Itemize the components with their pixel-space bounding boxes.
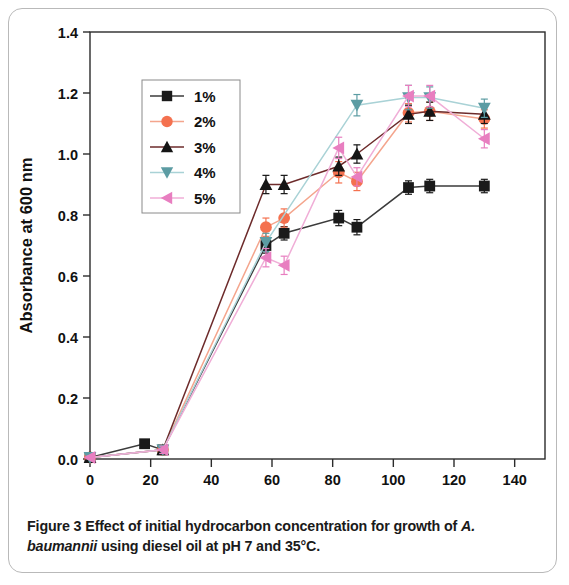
y-axis-tick-label: 0.6 bbox=[58, 269, 78, 285]
absorbance-vs-time-chart: 0.00.20.40.60.81.01.21.40204060801001201… bbox=[0, 0, 569, 500]
chart-legend: 1%2%3%4%5% bbox=[142, 80, 240, 213]
legend-label: 4% bbox=[194, 164, 216, 181]
y-axis-tick-label: 0.0 bbox=[58, 452, 78, 468]
x-axis-tick-label: 120 bbox=[442, 472, 466, 488]
figure-caption: Figure 3 Effect of initial hydrocarbon c… bbox=[27, 516, 532, 557]
data-marker-square bbox=[424, 181, 435, 192]
x-axis-tick-label: 80 bbox=[325, 472, 341, 488]
data-marker-triangle-down bbox=[478, 103, 491, 115]
data-marker-square bbox=[479, 181, 490, 192]
legend-label: 1% bbox=[194, 88, 216, 105]
data-marker-square bbox=[403, 182, 414, 193]
y-axis-tick-label: 1.4 bbox=[58, 25, 78, 41]
data-marker-square bbox=[162, 91, 172, 101]
y-axis-tick-label: 0.2 bbox=[58, 391, 78, 407]
x-axis-tick-label: 20 bbox=[143, 472, 159, 488]
caption-text-part2: using diesel oil at pH 7 and 35°C. bbox=[97, 538, 320, 554]
x-axis-tick-label: 60 bbox=[264, 472, 280, 488]
y-axis-tick-label: 1.0 bbox=[58, 147, 78, 163]
chart-plot-area: 0.00.20.40.60.81.01.21.40204060801001201… bbox=[0, 0, 569, 500]
data-marker-triangle-up bbox=[351, 148, 364, 160]
data-marker-triangle-down bbox=[351, 100, 364, 112]
y-axis-tick-label: 0.4 bbox=[58, 330, 78, 346]
data-marker-square bbox=[352, 222, 363, 233]
y-axis-title: Absorbance at 600 nm bbox=[17, 157, 35, 333]
x-axis-tick-label: 40 bbox=[203, 472, 219, 488]
data-marker-triangle-up bbox=[332, 160, 345, 172]
legend-label: 2% bbox=[194, 113, 216, 130]
y-axis-tick-label: 1.2 bbox=[58, 86, 78, 102]
x-axis-title: Time (h) bbox=[286, 499, 350, 500]
x-axis-tick-label: 0 bbox=[86, 472, 94, 488]
caption-text-part1: Effect of initial hydrocarbon concentrat… bbox=[81, 518, 461, 534]
data-marker-square bbox=[139, 438, 150, 449]
data-marker-square bbox=[333, 213, 344, 224]
y-axis-tick-label: 0.8 bbox=[58, 208, 78, 224]
legend-label: 5% bbox=[194, 190, 216, 207]
data-marker-circle bbox=[260, 221, 272, 233]
data-marker-circle bbox=[161, 116, 172, 127]
legend-label: 3% bbox=[194, 139, 216, 156]
caption-figure-number: Figure 3 bbox=[27, 518, 81, 534]
x-axis-tick-label: 140 bbox=[503, 472, 527, 488]
x-axis-tick-label: 100 bbox=[381, 472, 405, 488]
data-marker-square bbox=[279, 228, 290, 239]
